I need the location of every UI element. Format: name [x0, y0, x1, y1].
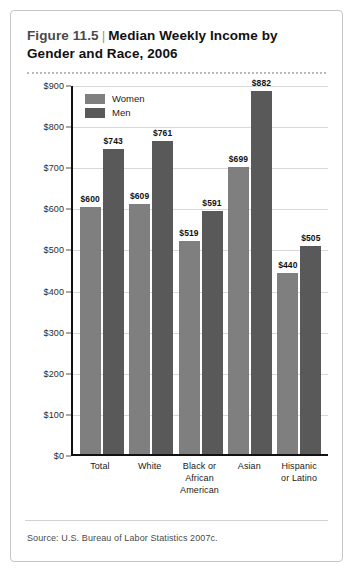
bar-group: $609$761: [126, 84, 175, 454]
bar-holder: $882: [251, 84, 272, 454]
bar-women[interactable]: [277, 273, 298, 454]
y-tick-label: $900: [44, 81, 64, 91]
bar-value-label: $600: [81, 194, 100, 204]
bar-value-label: $591: [202, 198, 221, 208]
bar-group: $699$882: [225, 84, 274, 454]
legend-label: Men: [112, 107, 130, 118]
bar-group: $519$591: [176, 84, 225, 454]
bar-value-label: $699: [229, 154, 248, 164]
bar-women[interactable]: [129, 204, 150, 454]
bar-men[interactable]: [152, 141, 173, 454]
y-tick-label: $600: [44, 204, 64, 214]
bar-holder: $743: [103, 84, 124, 454]
bar-men[interactable]: [103, 149, 124, 454]
bar-women[interactable]: [80, 207, 101, 454]
bar-holder: $440: [277, 84, 298, 454]
figure-inner: Figure 11.5|Median Weekly Income by Gend…: [11, 11, 342, 561]
y-tick-label: $800: [44, 122, 64, 132]
chart-area: Earnings $900$800$700$600$500$400$300$20…: [25, 86, 328, 478]
y-tick-label: $500: [44, 245, 64, 255]
y-axis-ticks: $900$800$700$600$500$400$300$200$100$0: [25, 86, 71, 456]
bar-group: $440$505: [275, 84, 324, 454]
bar-women[interactable]: [179, 241, 200, 454]
x-tick-label: White: [125, 460, 175, 496]
legend-item: Men: [85, 107, 145, 118]
bar-holder: $761: [152, 84, 173, 454]
title-dotted-divider: [27, 72, 326, 74]
legend-item: Women: [85, 93, 145, 104]
y-tick-label: $700: [44, 163, 64, 173]
bar-value-label: $882: [252, 78, 271, 88]
source-divider: [25, 520, 328, 521]
legend-label: Women: [112, 93, 145, 104]
y-tick-label: $0: [54, 451, 64, 461]
bar-holder: $505: [300, 84, 321, 454]
x-tick-label: Hispanicor Latino: [274, 460, 324, 496]
bar-value-label: $743: [104, 136, 123, 146]
bar-value-label: $609: [130, 191, 149, 201]
y-tick-label: $400: [44, 287, 64, 297]
x-axis-labels: TotalWhiteBlack orAfricanAmericanAsianHi…: [71, 460, 328, 496]
plot-frame: WomenMen $600$743$609$761$519$591$699$88…: [71, 86, 328, 456]
y-tick-label: $100: [44, 410, 64, 420]
bar-women[interactable]: [228, 167, 249, 454]
x-tick-label: Total: [75, 460, 125, 496]
x-tick-label: Black orAfricanAmerican: [175, 460, 225, 496]
bar-holder: $609: [129, 84, 150, 454]
x-tick-label: Asian: [224, 460, 274, 496]
bar-value-label: $440: [278, 260, 297, 270]
bar-men[interactable]: [300, 246, 321, 454]
bar-men[interactable]: [251, 91, 272, 454]
bar-holder: $519: [179, 84, 200, 454]
y-tick-label: $200: [44, 369, 64, 379]
chart-legend: WomenMen: [85, 93, 145, 121]
figure-title: Figure 11.5|Median Weekly Income by Gend…: [25, 27, 328, 63]
figure-number: Figure 11.5: [27, 28, 99, 43]
bar-men[interactable]: [202, 211, 223, 454]
bar-group: $600$743: [77, 84, 126, 454]
bar-value-label: $761: [153, 128, 172, 138]
y-tick-label: $300: [44, 328, 64, 338]
legend-swatch: [85, 94, 105, 104]
bar-holder: $699: [228, 84, 249, 454]
figure-card: Figure 11.5|Median Weekly Income by Gend…: [10, 10, 343, 562]
bar-value-label: $505: [301, 233, 320, 243]
bar-holder: $600: [80, 84, 101, 454]
title-separator: |: [99, 28, 109, 43]
bar-value-label: $519: [179, 228, 198, 238]
legend-swatch: [85, 108, 105, 118]
source-note: Source: U.S. Bureau of Labor Statistics …: [27, 533, 218, 543]
bar-groups: $600$743$609$761$519$591$699$882$440$505: [73, 84, 328, 454]
bar-holder: $591: [202, 84, 223, 454]
